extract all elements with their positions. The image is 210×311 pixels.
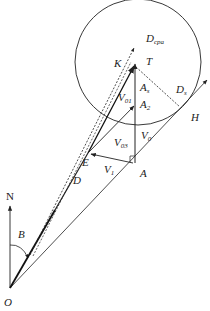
label-origin: O [4,296,12,308]
vector-v1 [91,154,133,163]
label-t: T [146,55,153,67]
label-h: H [190,111,200,123]
label-north: N [6,190,14,202]
label-d: D [72,174,81,186]
relative-motion-dashed-1 [30,48,134,255]
vector-v01 [88,66,134,153]
label-a-2: A2 [139,98,151,112]
label-v1: V1 [104,163,114,177]
label-a: A [139,167,147,179]
label-d-s: Ds [175,83,187,97]
label-v03: V03 [114,136,128,150]
label-k: K [113,57,122,69]
label-angle-b: B [18,228,25,240]
label-a-s: As [139,81,150,95]
label-d-cpa: Dcpa [145,32,165,46]
tangent-line-o-h [10,80,207,288]
bearing-angle-arc [10,245,28,258]
collision-avoidance-diagram: N O B D E A K T H Dcpa Ds As A2 V01 V03 … [0,0,210,311]
label-v01: V01 [118,91,132,105]
label-e: E [81,156,89,168]
label-v0: V0 [141,129,152,143]
course-line-o-d [10,210,55,288]
